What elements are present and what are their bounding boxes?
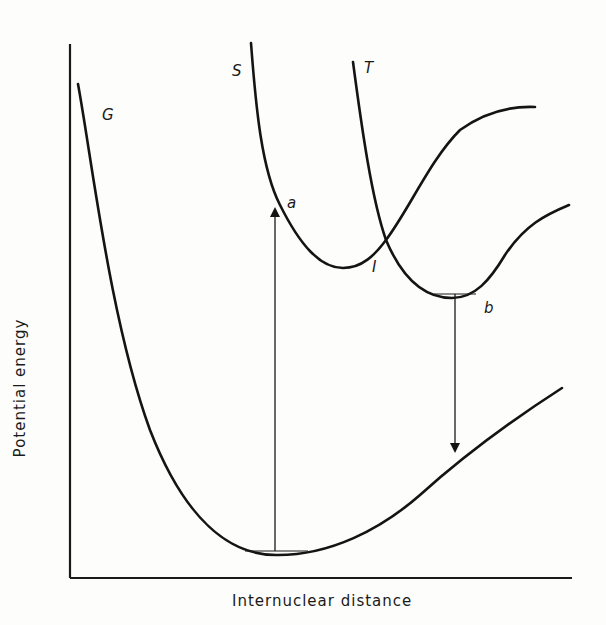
potential-energy-diagram [0,0,606,625]
label-t: T [364,61,373,76]
label-g: G [102,108,114,123]
label-b: b [484,301,494,316]
label-s: S [232,64,242,79]
y-axis-label: Potential energy [13,319,28,458]
label-a: a [287,196,296,211]
curve-t [353,62,569,298]
label-intersection-i: I [372,260,376,275]
curve-g [78,84,562,555]
x-axis-label: Internuclear distance [232,594,412,609]
curve-s [251,43,535,268]
